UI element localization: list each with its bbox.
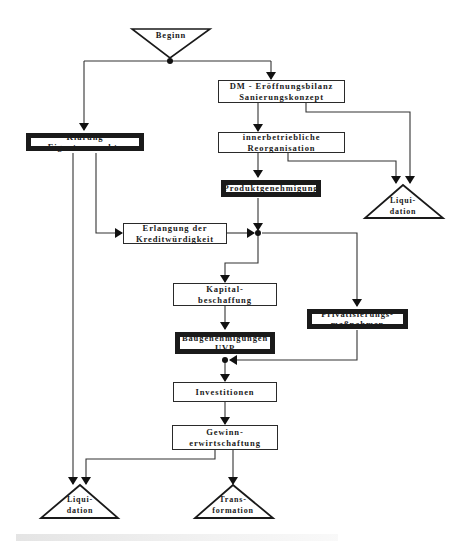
junction-dot-investment: [222, 357, 228, 363]
node-gewinn-line2: erwirtschaftung: [189, 438, 261, 449]
terminal-transformation-line1: Trans-: [199, 494, 267, 505]
node-eroeffnungsbilanz: DM - Eröffnungsbilanz Sanierungskonzept: [218, 80, 345, 103]
node-baugenehmigungen-line1: Baugenehmigungen: [182, 333, 268, 344]
node-kreditwuerdigkeit-line1: Erlangung der: [143, 223, 208, 234]
terminal-liquidation-right: Liqui- dation: [373, 195, 433, 217]
terminal-liquidation-bottom-line1: Liqui-: [50, 494, 110, 505]
node-produktgenehmigung-line1: Produktgenehmigung: [224, 183, 319, 194]
node-privatisierung: Privatisierungs- maßnahmen: [308, 310, 407, 328]
node-reorganisation-line1: innerbetriebliche: [243, 132, 321, 143]
node-eroeffnungsbilanz-line1: DM - Eröffnungsbilanz: [230, 81, 333, 92]
node-kapitalbeschaffung-line2: beschaffung: [198, 295, 252, 306]
terminal-transformation: Trans- formation: [199, 494, 267, 516]
node-eroeffnungsbilanz-line2: Sanierungskonzept: [239, 92, 324, 103]
terminal-liquidation-right-line1: Liqui-: [373, 195, 433, 206]
node-reorganisation-line2: Reorganisation: [248, 143, 316, 154]
node-privatisierung-line2: maßnahmen: [331, 319, 384, 330]
node-reorganisation: innerbetriebliche Reorganisation: [218, 132, 345, 153]
start-label: Beginn: [140, 30, 202, 41]
node-gewinn-line1: Gewinn-: [206, 427, 243, 438]
node-investitionen: Investitionen: [173, 382, 277, 402]
junction-dot-start: [167, 58, 173, 64]
node-kapitalbeschaffung-line1: Kapital-: [206, 284, 243, 295]
node-kapitalbeschaffung: Kapital- beschaffung: [173, 283, 277, 306]
node-investitionen-line1: Investitionen: [196, 387, 255, 398]
node-kreditwuerdigkeit: Erlangung der Kreditwürdigkeit: [123, 223, 227, 244]
terminal-liquidation-right-line2: dation: [373, 206, 433, 217]
junction-dot-credit: [255, 230, 261, 236]
node-kreditwuerdigkeit-line2: Kreditwürdigkeit: [136, 234, 214, 245]
node-privatisierung-line1: Privatisierungs-: [321, 309, 393, 320]
terminal-liquidation-bottom-line2: dation: [50, 505, 110, 516]
node-klaerung-line1: Klärung Eigentumsrechte: [29, 132, 141, 153]
node-klaerung: Klärung Eigentumsrechte: [27, 134, 143, 150]
node-gewinn: Gewinn- erwirtschaftung: [172, 425, 278, 450]
node-baugenehmigungen: Baugenehmigungen UVP: [176, 333, 274, 353]
node-baugenehmigungen-line2: UVP: [215, 343, 235, 354]
caption-remnant: [16, 534, 338, 541]
terminal-liquidation-bottom: Liqui- dation: [50, 494, 110, 516]
terminal-transformation-line2: formation: [199, 505, 267, 516]
node-produktgenehmigung: Produktgenehmigung: [222, 181, 320, 196]
